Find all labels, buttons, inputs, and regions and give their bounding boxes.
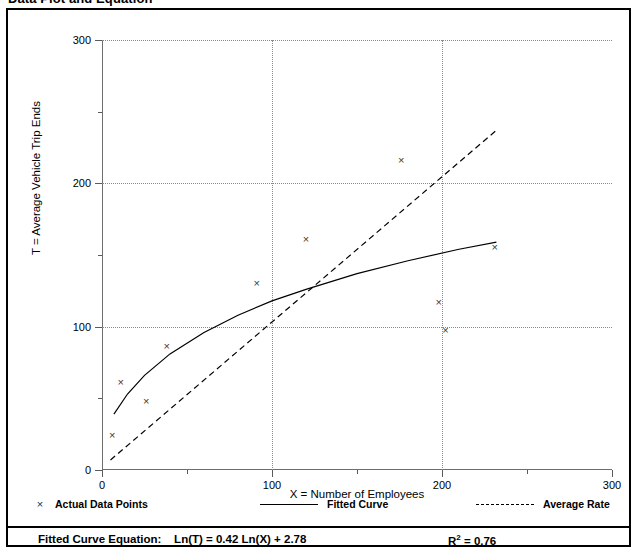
data-point-marker: × — [251, 278, 262, 289]
solid-line-icon — [260, 504, 318, 505]
x-axis-tick — [102, 470, 103, 477]
x-axis-tick-label: 0 — [99, 479, 105, 491]
x-axis-tick — [612, 470, 613, 477]
y-axis-tick — [95, 327, 102, 328]
x-axis-tick-label: 100 — [263, 479, 281, 491]
x-axis-minor-tick — [357, 470, 358, 474]
y-axis-title: T = Average Vehicle Trip Ends — [30, 101, 42, 255]
y-axis-tick — [95, 40, 102, 41]
chart-panel: T = Average Vehicle Trip Ends X = Number… — [6, 8, 631, 547]
data-point-marker: × — [141, 396, 152, 407]
equation-label: Fitted Curve Equation: — [38, 533, 161, 545]
x-marker-icon: × — [34, 498, 46, 510]
y-axis-tick-label: 300 — [73, 34, 91, 46]
equation-value: Ln(T) = 0.42 Ln(X) + 2.78 — [174, 533, 306, 545]
legend-label-average-rate: Average Rate — [543, 498, 610, 510]
data-point-marker: × — [161, 341, 172, 352]
x-axis-tick — [442, 470, 443, 477]
y-axis-tick-label: 0 — [85, 464, 91, 476]
y-axis-tick — [95, 470, 102, 471]
legend-item-actual-data-points: × Actual Data Points — [34, 498, 148, 510]
y-axis-tick-label: 100 — [73, 321, 91, 333]
plot-area: 01002003000100200300 ×××××××××× — [102, 40, 612, 470]
legend-label-fitted-curve: Fitted Curve — [327, 498, 388, 510]
x-axis-minor-tick — [187, 470, 188, 474]
legend-label-actual-data-points: Actual Data Points — [55, 498, 148, 510]
data-point-marker: × — [115, 377, 126, 388]
chart-legend: × Actual Data Points Fitted Curve Averag… — [8, 498, 629, 524]
data-point-marker: × — [301, 234, 312, 245]
legend-item-fitted-curve: Fitted Curve — [260, 498, 388, 510]
legend-item-average-rate: Average Rate — [476, 498, 610, 510]
data-point-marker: × — [107, 430, 118, 441]
curve-layer — [102, 40, 612, 470]
y-axis-tick — [95, 183, 102, 184]
figure-title: Data Plot and Equation — [8, 0, 152, 6]
data-point-marker: × — [489, 242, 500, 253]
equation-footer: Fitted Curve Equation: Ln(T) = 0.42 Ln(X… — [8, 526, 629, 549]
data-point-marker: × — [440, 325, 451, 336]
x-axis-tick — [272, 470, 273, 477]
r-squared-exponent: 2 — [456, 533, 460, 542]
r-squared-value: R2 = 0.76 — [448, 533, 496, 547]
data-point-marker: × — [433, 297, 444, 308]
x-axis-tick-label: 200 — [433, 479, 451, 491]
r-squared-number: = 0.76 — [464, 535, 496, 547]
dashed-line-icon — [476, 504, 534, 505]
y-axis-tick-label: 200 — [73, 177, 91, 189]
data-point-marker: × — [396, 155, 407, 166]
x-axis-minor-tick — [527, 470, 528, 474]
x-axis-tick-label: 300 — [603, 479, 621, 491]
fitted-curve-equation: Fitted Curve Equation: Ln(T) = 0.42 Ln(X… — [38, 533, 306, 545]
